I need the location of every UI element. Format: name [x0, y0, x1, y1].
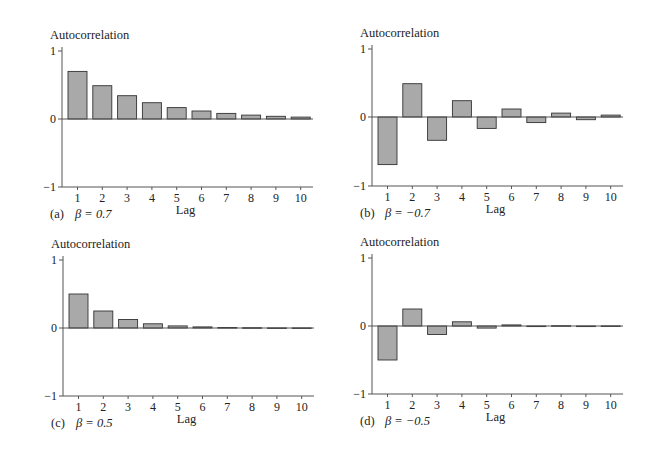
panel-label: (c)	[51, 416, 65, 430]
autocorrelation-figure: Autocorrelation10−112345678910Lag(a)β = …	[0, 0, 663, 458]
x-tick-label: 9	[273, 191, 279, 205]
panel-label: (b)	[360, 206, 375, 220]
bar-lag-1	[378, 117, 397, 165]
x-tick-label: 2	[100, 400, 106, 414]
x-tick-label: 3	[434, 190, 440, 204]
bar-lag-7	[217, 113, 236, 119]
bar-lag-3	[119, 320, 138, 329]
x-tick-label: 6	[509, 190, 515, 204]
x-tick-label: 1	[385, 190, 391, 204]
panel-label: (a)	[50, 207, 64, 221]
bar-lag-4	[142, 103, 161, 119]
y-axis-label: Autocorrelation	[50, 28, 130, 42]
bar-lag-2	[403, 84, 422, 117]
bar-lag-4	[143, 324, 162, 328]
bar-lag-6	[502, 109, 521, 117]
x-tick-label: 6	[200, 400, 206, 414]
figure-background	[0, 0, 663, 458]
x-tick-label: 10	[605, 190, 617, 204]
x-tick-label: 4	[459, 398, 465, 412]
y-tick-label: 0	[51, 321, 57, 335]
bar-lag-6	[192, 111, 211, 119]
x-tick-label: 9	[583, 190, 589, 204]
x-tick-label: 6	[509, 398, 515, 412]
x-tick-label: 10	[295, 191, 307, 205]
bar-lag-3	[428, 326, 447, 335]
bar-lag-7	[527, 117, 546, 123]
bar-lag-5	[167, 108, 186, 119]
y-tick-label: 1	[51, 253, 57, 267]
x-tick-label: 10	[605, 398, 617, 412]
x-tick-label: 7	[533, 398, 539, 412]
x-axis-label: Lag	[486, 202, 506, 216]
y-tick-label: 0	[360, 110, 366, 124]
x-tick-label: 8	[558, 190, 564, 204]
x-tick-label: 6	[199, 191, 205, 205]
x-tick-label: 9	[583, 398, 589, 412]
y-tick-label: −1	[353, 179, 366, 193]
y-tick-label: 1	[50, 44, 56, 58]
y-tick-label: −1	[43, 180, 56, 194]
bar-lag-2	[94, 311, 113, 328]
y-tick-label: 0	[360, 319, 366, 333]
bar-lag-1	[378, 326, 397, 360]
x-tick-label: 1	[76, 400, 82, 414]
x-tick-label: 2	[99, 191, 105, 205]
bar-lag-2	[93, 86, 112, 119]
bar-lag-2	[403, 309, 422, 326]
x-tick-label: 3	[125, 400, 131, 414]
beta-caption: β = 0.5	[75, 416, 113, 430]
x-tick-label: 7	[223, 191, 229, 205]
bar-lag-4	[452, 101, 471, 117]
bar-lag-3	[428, 117, 447, 140]
x-tick-label: 8	[558, 398, 564, 412]
y-tick-label: −1	[353, 387, 366, 401]
x-tick-label: 9	[274, 400, 280, 414]
x-tick-label: 4	[149, 191, 155, 205]
panel-label: (d)	[360, 414, 375, 428]
x-axis-label: Lag	[177, 412, 197, 426]
beta-caption: β = −0.7	[384, 206, 431, 220]
x-tick-label: 3	[434, 398, 440, 412]
bar-lag-1	[69, 294, 88, 328]
x-tick-label: 8	[249, 400, 255, 414]
bar-lag-4	[452, 322, 471, 326]
x-tick-label: 7	[224, 400, 230, 414]
x-tick-label: 4	[150, 400, 156, 414]
bar-lag-8	[242, 115, 261, 119]
x-tick-label: 1	[385, 398, 391, 412]
bar-lag-3	[118, 96, 137, 119]
x-tick-label: 2	[409, 398, 415, 412]
x-tick-label: 8	[248, 191, 254, 205]
x-tick-label: 4	[459, 190, 465, 204]
y-tick-label: 0	[50, 112, 56, 126]
beta-caption: β = 0.7	[74, 207, 112, 221]
y-tick-label: −1	[44, 389, 57, 403]
y-tick-label: 1	[360, 42, 366, 56]
y-tick-label: 1	[360, 251, 366, 265]
beta-caption: β = −0.5	[384, 414, 430, 428]
bar-lag-8	[552, 113, 571, 117]
x-tick-label: 7	[533, 190, 539, 204]
x-tick-label: 1	[75, 191, 81, 205]
bar-lag-5	[477, 117, 496, 128]
bar-lag-1	[68, 71, 87, 119]
y-axis-label: Autocorrelation	[360, 235, 440, 249]
x-tick-label: 3	[124, 191, 130, 205]
y-axis-label: Autocorrelation	[360, 26, 440, 40]
x-axis-label: Lag	[486, 410, 506, 424]
x-tick-label: 2	[409, 190, 415, 204]
x-axis-label: Lag	[176, 203, 196, 217]
y-axis-label: Autocorrelation	[51, 237, 131, 251]
x-tick-label: 10	[296, 400, 308, 414]
